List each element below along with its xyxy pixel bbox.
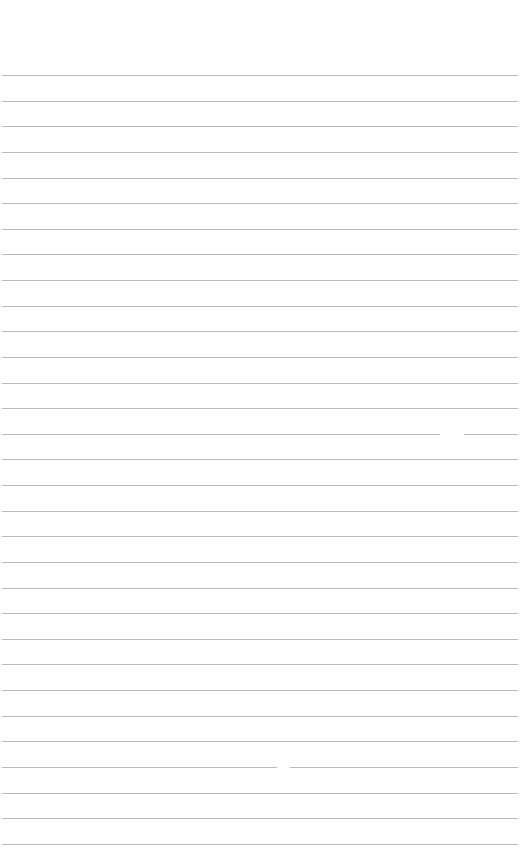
ruled-line <box>2 562 518 563</box>
ruled-line <box>2 818 518 819</box>
ruled-line <box>2 613 518 614</box>
ruled-line <box>2 664 518 665</box>
ruled-line <box>2 793 518 794</box>
ruled-line <box>2 229 518 230</box>
ruled-line <box>2 690 518 691</box>
ruled-line <box>2 767 518 768</box>
ruled-line <box>2 357 518 358</box>
ruled-line <box>2 639 518 640</box>
ruled-line <box>2 383 518 384</box>
ruled-line <box>2 178 518 179</box>
ruled-line <box>2 408 518 409</box>
ruled-line <box>2 126 518 127</box>
ruled-line <box>2 280 518 281</box>
ruled-line <box>2 588 518 589</box>
ruled-line <box>2 331 518 332</box>
ruled-line <box>2 536 518 537</box>
ruled-line <box>2 101 518 102</box>
ruled-line <box>2 75 518 76</box>
ruled-line <box>2 844 518 845</box>
line-gap <box>440 433 464 436</box>
ruled-line <box>2 741 518 742</box>
ruled-line <box>2 306 518 307</box>
ruled-line <box>2 459 518 460</box>
line-gap <box>277 766 290 769</box>
ruled-line <box>2 485 518 486</box>
lined-paper-page <box>0 0 525 864</box>
ruled-line <box>2 511 518 512</box>
ruled-line <box>2 254 518 255</box>
ruled-line <box>2 716 518 717</box>
ruled-line <box>2 152 518 153</box>
ruled-line <box>2 203 518 204</box>
